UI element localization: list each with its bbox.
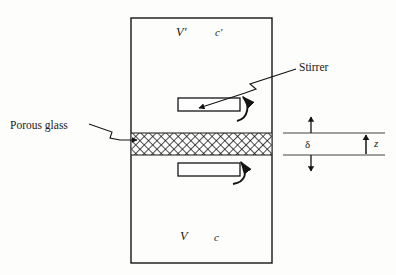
membrane-thickness-label: δ [305, 139, 310, 150]
upper-volume-label: V′ [176, 26, 186, 39]
z-axis-label: z [374, 138, 378, 149]
porous-glass-membrane [132, 133, 272, 155]
diffusion-cell-figure: Stirrer Porous glass V′ c′ V c δ z [0, 0, 396, 275]
porous-glass-label: Porous glass [10, 120, 68, 132]
lower-volume-label: V [180, 230, 188, 243]
porous-glass-leader-line [89, 124, 137, 140]
lower-concentration-label: c [214, 232, 219, 243]
diagram-canvas [0, 0, 396, 275]
lower-stirrer-bar [178, 163, 240, 176]
upper-concentration-label: c′ [215, 27, 222, 38]
stirrer-label: Stirrer [299, 62, 328, 74]
